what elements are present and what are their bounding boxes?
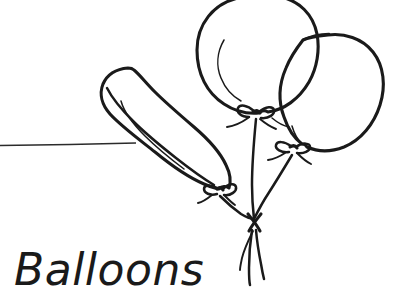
balloons-illustration: Balloons xyxy=(0,0,399,294)
drawing-canvas: Balloons xyxy=(0,0,399,294)
caption-balloons: Balloons xyxy=(14,244,204,294)
